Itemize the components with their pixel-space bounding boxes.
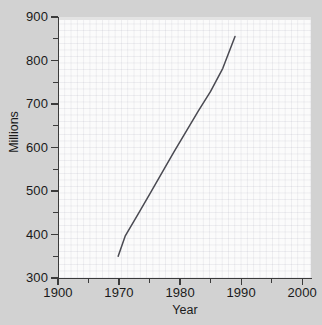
y-tick-major bbox=[51, 16, 58, 17]
line-series bbox=[58, 17, 311, 278]
x-tick-minor bbox=[88, 279, 89, 283]
y-tick-label: 700 bbox=[26, 96, 48, 111]
chart-figure: 300400500600700800900 190019701980199020… bbox=[0, 0, 322, 325]
x-tick-minor bbox=[149, 279, 150, 283]
x-tick-minor bbox=[271, 279, 272, 283]
y-axis-line bbox=[58, 17, 59, 279]
y-tick-label: 300 bbox=[26, 270, 48, 285]
y-tick-label: 500 bbox=[26, 183, 48, 198]
y-tick-minor bbox=[53, 256, 58, 257]
x-tick-label: 1900 bbox=[36, 285, 80, 300]
x-tick-label: 1990 bbox=[219, 285, 263, 300]
y-tick-major bbox=[51, 190, 58, 191]
y-tick-minor bbox=[53, 82, 58, 83]
y-tick-major bbox=[51, 147, 58, 148]
y-tick-label: 600 bbox=[26, 140, 48, 155]
x-axis-title: Year bbox=[58, 303, 312, 317]
y-tick-minor bbox=[53, 38, 58, 39]
x-axis-line bbox=[58, 278, 312, 279]
x-tick-minor bbox=[210, 279, 211, 283]
y-tick-major bbox=[51, 103, 58, 104]
y-axis-title: Millions bbox=[7, 97, 21, 167]
y-tick-major bbox=[51, 60, 58, 61]
y-tick-minor bbox=[53, 212, 58, 213]
y-tick-label: 900 bbox=[26, 9, 48, 24]
y-tick-label: 800 bbox=[26, 53, 48, 68]
y-tick-major bbox=[51, 234, 58, 235]
plot-area bbox=[58, 17, 311, 278]
y-tick-minor bbox=[53, 169, 58, 170]
x-tick-label: 1980 bbox=[158, 285, 202, 300]
x-tick-label: 1970 bbox=[97, 285, 141, 300]
y-tick-minor bbox=[53, 125, 58, 126]
y-tick-label: 400 bbox=[26, 227, 48, 242]
x-tick-label: 2000 bbox=[280, 285, 322, 300]
